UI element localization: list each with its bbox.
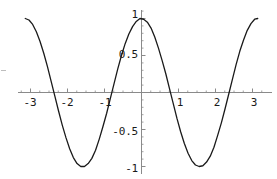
y-tick-label-pos05: 0.5 xyxy=(113,49,138,60)
y-tick-label-neg1: -1 xyxy=(119,163,138,174)
function-plot-canvas xyxy=(0,0,277,179)
x-tick-label-pos2: 2 xyxy=(214,97,220,108)
plot-figure: -3 -2 -1 1 2 3 1 0.5 -0.5 -1 xyxy=(0,0,277,179)
x-tick-label-neg3: -3 xyxy=(24,97,37,108)
y-tick-label-neg05: -0.5 xyxy=(107,126,138,137)
x-tick-label-pos1: 1 xyxy=(177,97,183,108)
x-tick-label-neg2: -2 xyxy=(61,97,74,108)
y-tick-label-pos1: 1 xyxy=(126,9,138,20)
x-tick-label-neg1: -1 xyxy=(99,97,112,108)
x-tick-label-pos3: 3 xyxy=(251,97,257,108)
